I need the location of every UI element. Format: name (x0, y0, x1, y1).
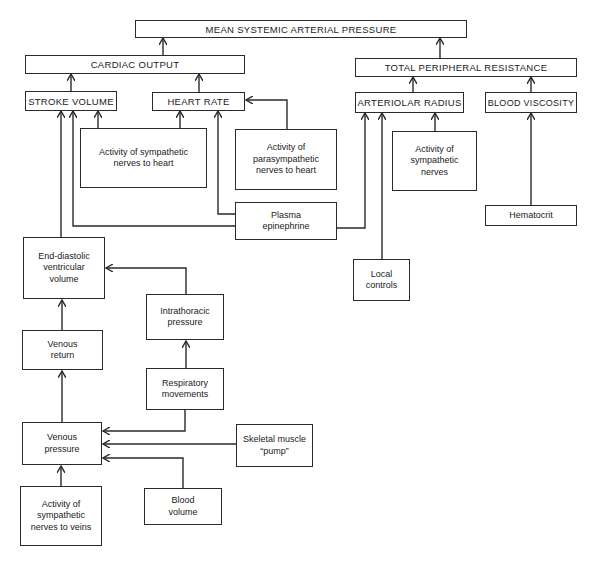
node-end-diastolic-ventricular-volume: End-diastolic ventricular volume (23, 237, 105, 299)
node-blood-volume: Blood volume (144, 488, 222, 525)
node-label: Activity of parasympathetic nerves to he… (246, 142, 326, 177)
node-label: CARDIAC OUTPUT (91, 59, 180, 70)
node-label: MEAN SYSTEMIC ARTERIAL PRESSURE (206, 24, 397, 35)
flow-diagram: MEAN SYSTEMIC ARTERIAL PRESSURE CARDIAC … (0, 0, 597, 562)
node-activity-sympathetic-nerves: Activity of sympathetic nerves (392, 131, 477, 191)
node-mean-systemic-arterial-pressure: MEAN SYSTEMIC ARTERIAL PRESSURE (135, 20, 467, 38)
node-label: Venous pressure (39, 432, 85, 455)
node-heart-rate: HEART RATE (152, 92, 245, 111)
node-label: TOTAL PERIPHERAL RESISTANCE (385, 62, 548, 73)
node-label: End-diastolic ventricular volume (34, 251, 94, 286)
node-label: Activity of sympathetic nerves (403, 144, 466, 179)
node-label: Skeletal muscle “pump” (241, 434, 308, 457)
node-hematocrit: Hematocrit (485, 205, 577, 226)
node-venous-return: Venous return (22, 330, 103, 370)
node-label: Plasma epinephrine (258, 210, 314, 233)
node-label: Hematocrit (509, 210, 553, 222)
node-label: ARTERIOLAR RADIUS (357, 97, 461, 108)
node-intrathoracic-pressure: Intrathoracic pressure (146, 294, 224, 340)
node-label: Respiratory movements (153, 378, 217, 401)
node-skeletal-muscle-pump: Skeletal muscle “pump” (236, 424, 313, 467)
node-stroke-volume: STROKE VOLUME (25, 91, 117, 111)
node-label: Activity of sympathetic nerves to veins (27, 499, 95, 534)
node-venous-pressure: Venous pressure (22, 422, 102, 465)
node-respiratory-movements: Respiratory movements (146, 368, 224, 410)
node-local-controls: Local controls (353, 259, 410, 301)
node-label: STROKE VOLUME (28, 96, 114, 107)
node-label: Blood volume (163, 495, 203, 518)
node-total-peripheral-resistance: TOTAL PERIPHERAL RESISTANCE (355, 58, 577, 77)
node-plasma-epinephrine: Plasma epinephrine (235, 202, 337, 240)
node-blood-viscosity: BLOOD VISCOSITY (485, 92, 577, 113)
node-activity-sympathetic-veins: Activity of sympathetic nerves to veins (20, 486, 102, 546)
node-activity-sympathetic-heart: Activity of sympathetic nerves to heart (80, 128, 207, 188)
node-arteriolar-radius: ARTERIOLAR RADIUS (355, 92, 464, 113)
node-label: BLOOD VISCOSITY (488, 98, 575, 108)
node-cardiac-output: CARDIAC OUTPUT (25, 55, 245, 74)
node-label: Local controls (362, 269, 401, 292)
node-label: HEART RATE (167, 96, 229, 107)
node-activity-parasympathetic-heart: Activity of parasympathetic nerves to he… (235, 129, 337, 190)
node-label: Venous return (41, 339, 84, 362)
node-label: Intrathoracic pressure (153, 306, 217, 329)
node-label: Activity of sympathetic nerves to heart (95, 147, 192, 170)
